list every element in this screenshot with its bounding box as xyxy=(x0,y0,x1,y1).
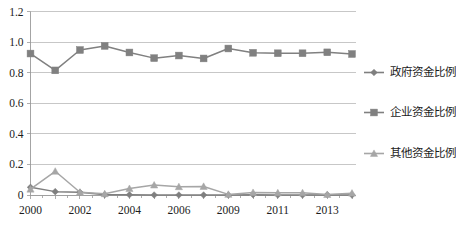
chart-canvas: 00.20.40.60.81.01.2 20002002200420062009… xyxy=(0,0,456,234)
data-point xyxy=(52,67,59,74)
legend-marker-diamond-icon xyxy=(371,69,378,76)
y-label-0: 0 xyxy=(18,189,24,201)
y-label-1.2: 1.2 xyxy=(9,6,24,18)
data-point xyxy=(101,43,108,50)
y-label-1.0: 1.0 xyxy=(9,36,24,48)
data-point xyxy=(274,50,281,57)
data-point xyxy=(52,188,59,195)
legend-item-0[interactable]: 政府资金比例 xyxy=(364,65,456,78)
y-axis-tick-labels: 00.20.40.60.81.01.2 xyxy=(9,6,24,202)
legend-label-0: 政府资金比例 xyxy=(390,65,456,78)
data-point xyxy=(324,49,331,56)
data-point xyxy=(175,52,182,59)
y-label-0.6: 0.6 xyxy=(9,97,24,109)
y-label-0.4: 0.4 xyxy=(9,128,24,140)
x-label-2002: 2002 xyxy=(68,204,91,216)
data-point xyxy=(126,49,133,56)
x-label-2009: 2009 xyxy=(217,204,240,216)
data-point xyxy=(250,49,257,56)
line-chart: 00.20.40.60.81.01.2 20002002200420062009… xyxy=(0,0,456,234)
x-label-2013: 2013 xyxy=(316,204,339,216)
x-label-2011: 2011 xyxy=(267,204,290,216)
legend-marker-square-icon xyxy=(371,109,378,116)
data-point xyxy=(27,50,34,57)
legend-label-2: 其他资金比例 xyxy=(390,146,456,159)
data-point xyxy=(151,55,158,62)
data-point xyxy=(176,192,183,199)
data-point xyxy=(299,50,306,57)
legend-item-1[interactable]: 企业资金比例 xyxy=(364,105,456,118)
data-point xyxy=(151,192,158,199)
legend-item-2[interactable]: 其他资金比例 xyxy=(364,146,456,159)
data-point xyxy=(77,47,84,54)
x-label-2006: 2006 xyxy=(167,204,190,216)
series-1 xyxy=(27,43,355,74)
legend: 政府资金比例企业资金比例其他资金比例 xyxy=(364,65,456,159)
plot-area: 00.20.40.60.81.01.2 20002002200420062009… xyxy=(0,0,456,234)
axis xyxy=(27,12,356,197)
y-label-0.8: 0.8 xyxy=(9,67,24,79)
data-point xyxy=(52,168,59,175)
data-point xyxy=(126,191,133,198)
data-series xyxy=(27,43,356,199)
data-point xyxy=(225,45,232,52)
x-label-2004: 2004 xyxy=(118,204,141,216)
gridlines xyxy=(31,12,357,196)
x-axis-tick-labels: 2000200220042006200920112013 xyxy=(19,204,339,216)
data-point xyxy=(200,192,207,199)
y-label-0.2: 0.2 xyxy=(9,158,24,170)
series-2 xyxy=(27,168,356,198)
legend-label-1: 企业资金比例 xyxy=(390,105,456,118)
data-point xyxy=(349,51,356,58)
x-label-2000: 2000 xyxy=(19,204,42,216)
data-point xyxy=(200,55,207,62)
